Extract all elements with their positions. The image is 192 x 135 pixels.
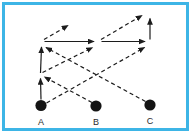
node-A — [35, 100, 46, 111]
edge-j2-arrow-up-right — [44, 26, 68, 40]
node-label-B: B — [93, 117, 99, 127]
arrow-flow-diagram: ABC — [0, 0, 192, 135]
edges-layer — [41, 16, 151, 104]
node-label-C: C — [147, 116, 154, 126]
node-C — [144, 99, 155, 110]
edge-j1-up-to-j2 — [41, 47, 42, 73]
edge-j3-arrow-up-right — [101, 16, 142, 40]
node-B — [90, 100, 101, 111]
node-label-A: A — [38, 117, 44, 127]
edge-A-up-to-j1 — [41, 79, 42, 100]
edge-j1-diag-to-j3 — [43, 48, 93, 73]
nodes-layer: ABC — [35, 99, 155, 127]
edge-A-diag-to-j4 — [47, 48, 145, 104]
figure-container: ABC — [0, 0, 192, 135]
